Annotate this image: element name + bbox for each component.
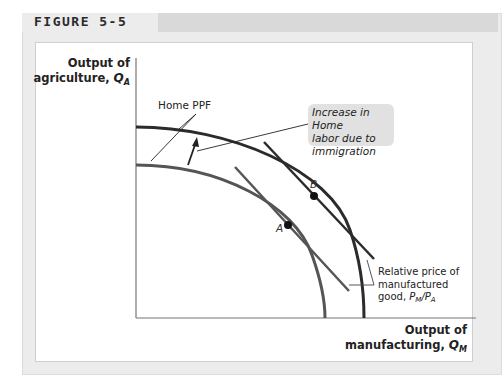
- price-pa-sub: A: [431, 296, 436, 304]
- point-b-marker: [310, 192, 318, 200]
- price-label-line3: good, PM/PA: [378, 291, 459, 307]
- shift-arrow-head: [192, 137, 199, 147]
- point-a-marker: [284, 221, 292, 229]
- home-ppf-label: Home PPF: [158, 99, 211, 112]
- point-a-label: A: [276, 222, 283, 234]
- price-label-line2: manufactured: [378, 279, 459, 292]
- price-line-a: [235, 167, 349, 291]
- callout-line2: labor due to: [312, 132, 390, 145]
- callout-line1: Increase in Home: [312, 106, 390, 132]
- price-line-b: [264, 142, 374, 259]
- immigration-callout: Increase in Home labor due to immigratio…: [308, 104, 394, 146]
- callout-line3: immigration: [312, 145, 390, 158]
- relative-price-label: Relative price of manufactured good, PM/…: [378, 266, 459, 307]
- inner-ppf-curve: [136, 165, 325, 318]
- price-label-prefix: good,: [378, 291, 406, 302]
- ppf-pointer-outer: [179, 114, 196, 129]
- price-label-line1: Relative price of: [378, 266, 459, 279]
- point-b-label: B: [310, 178, 317, 190]
- ppf-pointer-inner: [151, 114, 196, 161]
